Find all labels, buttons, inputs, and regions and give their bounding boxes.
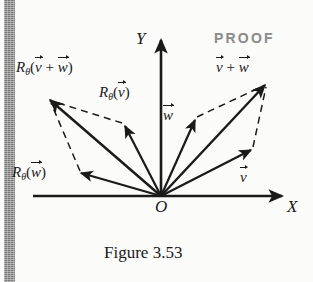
origin-label: O <box>155 198 167 215</box>
vector-rotated-v <box>125 126 161 196</box>
label-rotated-sum-close: ) <box>68 59 73 75</box>
label-rotated-v-v: v <box>118 83 125 100</box>
label-rotated-sum-fn: R <box>16 59 25 75</box>
label-rotated-w-fn: R <box>12 164 21 180</box>
label-vector-w-text: w <box>163 106 173 123</box>
label-rotated-w-close: ) <box>41 164 46 180</box>
proof-heading: PROOF <box>214 30 275 46</box>
dashed-right-top <box>197 86 263 117</box>
label-rotated-v-close: ) <box>125 84 130 100</box>
vector-w <box>161 120 195 196</box>
label-rotated-sum: Rθ(v + w) <box>16 58 73 77</box>
label-sum: v + w <box>216 58 249 75</box>
vector-v <box>161 150 251 196</box>
vector-rotated-v-plus-w <box>50 100 161 196</box>
label-vector-v: v <box>240 168 247 185</box>
label-vector-v-text: v <box>240 168 247 185</box>
label-rotated-w-w: w <box>31 163 41 180</box>
label-rotated-sum-plus: + <box>45 59 53 75</box>
label-sum-plus: + <box>226 59 234 75</box>
label-sum-w: w <box>239 58 249 75</box>
label-rotated-v-fn: R <box>99 84 108 100</box>
label-rotated-sum-w: w <box>58 58 68 75</box>
y-axis-label: Y <box>136 30 145 47</box>
label-rotated-sum-v: v <box>35 58 42 75</box>
figure-caption: Figure 3.53 <box>104 243 182 263</box>
vector-v-plus-w <box>161 85 265 196</box>
figure-page: PROOF Rθ(v + w) Rθ(v) Rθ(w) v + w w v Y … <box>0 0 313 282</box>
x-axis-label: X <box>287 198 297 215</box>
label-rotated-v: Rθ(v) <box>99 83 130 102</box>
label-sum-v: v <box>216 58 223 75</box>
label-rotated-w: Rθ(w) <box>12 163 46 182</box>
label-vector-w: w <box>163 106 173 123</box>
